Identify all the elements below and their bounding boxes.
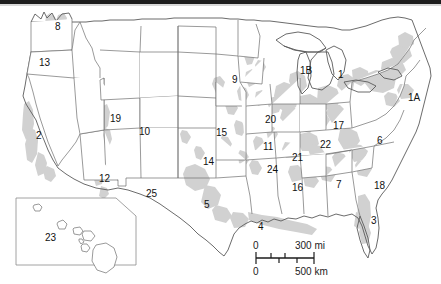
region-label-22: 22 bbox=[320, 140, 331, 150]
region-label-6: 6 bbox=[377, 136, 383, 146]
region-label-21: 21 bbox=[292, 153, 303, 163]
region-label-20: 20 bbox=[265, 115, 276, 125]
region-label-11: 11 bbox=[263, 142, 273, 152]
region-label-2: 2 bbox=[36, 131, 42, 141]
region-label-16: 16 bbox=[292, 183, 303, 193]
map-canvas: 1 1A 1B 2 3 4 5 6 7 8 9 10 11 12 13 14 1… bbox=[0, 0, 441, 284]
region-label-7: 7 bbox=[336, 180, 342, 190]
region-label-17: 17 bbox=[333, 121, 344, 131]
region-label-3: 3 bbox=[371, 216, 377, 226]
scale-km-max: 500 km bbox=[295, 266, 328, 277]
scale-km-zero: 0 bbox=[253, 266, 259, 277]
state-borders-west bbox=[27, 19, 178, 186]
region-label-4: 4 bbox=[258, 222, 264, 232]
region-label-9: 9 bbox=[232, 75, 238, 85]
region-label-23: 23 bbox=[45, 233, 56, 243]
region-label-24: 24 bbox=[267, 165, 278, 175]
region-label-15: 15 bbox=[216, 128, 227, 138]
scale-miles-max: 300 mi bbox=[295, 240, 325, 251]
region-label-13: 13 bbox=[39, 58, 50, 68]
region-label-10: 10 bbox=[139, 127, 150, 137]
united-states-map-graphic bbox=[0, 0, 441, 284]
region-label-18: 18 bbox=[374, 181, 385, 191]
region-label-1: 1 bbox=[338, 70, 344, 80]
region-label-1A: 1A bbox=[408, 93, 420, 103]
scale-miles-zero: 0 bbox=[253, 240, 259, 251]
region-label-8: 8 bbox=[55, 22, 61, 32]
state-borders-plains bbox=[178, 20, 276, 178]
region-label-1B: 1B bbox=[300, 66, 312, 76]
region-label-25: 25 bbox=[146, 189, 157, 199]
scale-bar-graphic bbox=[256, 252, 314, 264]
region-label-5: 5 bbox=[204, 200, 210, 210]
region-label-14: 14 bbox=[203, 157, 214, 167]
region-label-19: 19 bbox=[110, 114, 121, 124]
region-label-12: 12 bbox=[99, 174, 110, 184]
